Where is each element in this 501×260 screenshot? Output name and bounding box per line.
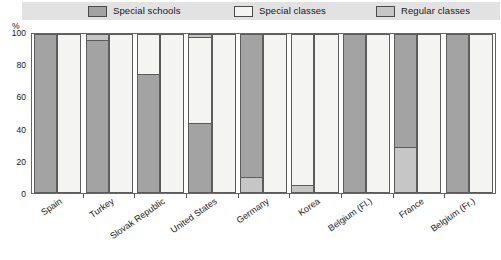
stacked-bar[interactable]	[469, 34, 493, 193]
bar-segment[interactable]	[263, 34, 287, 193]
x-axis-category-label: Turkey	[88, 196, 116, 220]
bar-segment[interactable]	[188, 37, 211, 123]
bar-group[interactable]	[289, 34, 340, 193]
bar-segment[interactable]	[240, 177, 263, 193]
bar-group[interactable]	[135, 34, 186, 193]
bar-segment[interactable]	[314, 34, 338, 193]
stacked-bar[interactable]	[446, 34, 469, 193]
chart-plot-area	[31, 33, 496, 194]
bar-group[interactable]	[83, 34, 134, 193]
stacked-bar[interactable]	[188, 34, 211, 193]
x-axis-category-label: France	[397, 196, 426, 220]
bar-segment[interactable]	[394, 147, 417, 193]
chart-legend: Special schools Special classes Regular …	[22, 2, 500, 20]
bar-segment[interactable]	[417, 34, 441, 193]
x-axis-category-label: Belgium (Fl.)	[326, 196, 374, 233]
bar-segment[interactable]	[57, 34, 81, 193]
x-axis-category-label: Germany	[235, 196, 271, 225]
legend-label-special-classes: Special classes	[259, 6, 326, 16]
stacked-bar[interactable]	[394, 34, 417, 193]
bar-segment[interactable]	[109, 34, 133, 193]
y-axis-tick-label: 60	[17, 93, 26, 102]
y-axis-tick-label: 100	[12, 29, 26, 38]
x-axis-labels: SpainTurkeySlovak RepublicUnited StatesG…	[31, 196, 496, 260]
y-axis-tick-label: 20	[17, 158, 26, 167]
bar-group[interactable]	[238, 34, 289, 193]
legend-item-special-schools: Special schools	[88, 6, 181, 17]
stacked-bar[interactable]	[417, 34, 441, 193]
stacked-bar[interactable]	[240, 34, 263, 193]
bar-segment[interactable]	[137, 74, 160, 193]
x-axis-category-label: Belgium (Fr.)	[429, 196, 477, 234]
x-axis-category-label: Korea	[296, 196, 321, 218]
y-axis-tick-label: 80	[17, 61, 26, 70]
legend-swatch-regular-classes	[376, 6, 395, 17]
legend-item-regular-classes: Regular classes	[376, 6, 470, 17]
stacked-bar[interactable]	[314, 34, 338, 193]
bar-segment[interactable]	[469, 34, 493, 193]
bar-segment[interactable]	[137, 34, 160, 74]
bar-group[interactable]	[392, 34, 443, 193]
bar-group[interactable]	[341, 34, 392, 193]
stacked-bar[interactable]	[263, 34, 287, 193]
stacked-bar[interactable]	[109, 34, 133, 193]
bar-group[interactable]	[444, 34, 495, 193]
bar-group[interactable]	[186, 34, 237, 193]
legend-swatch-special-schools	[88, 6, 107, 17]
bar-segment[interactable]	[160, 34, 184, 193]
stacked-bar[interactable]	[57, 34, 81, 193]
bar-segment[interactable]	[394, 34, 417, 147]
bar-segment[interactable]	[34, 34, 57, 193]
y-axis-tick-label: 0	[21, 190, 26, 199]
bar-segment[interactable]	[291, 185, 314, 193]
stacked-bar[interactable]	[366, 34, 390, 193]
legend-label-regular-classes: Regular classes	[401, 6, 470, 16]
bar-groups-container	[32, 34, 495, 193]
bar-segment[interactable]	[366, 34, 390, 193]
stacked-bar[interactable]	[34, 34, 57, 193]
bar-segment[interactable]	[212, 34, 236, 193]
bar-segment[interactable]	[446, 34, 469, 193]
bar-segment[interactable]	[188, 123, 211, 193]
bar-segment[interactable]	[86, 40, 109, 193]
stacked-bar[interactable]	[160, 34, 184, 193]
bar-segment[interactable]	[240, 34, 263, 177]
bar-segment[interactable]	[291, 34, 314, 185]
y-axis: 020406080100	[0, 33, 31, 194]
x-axis-category-label: United States	[169, 196, 219, 235]
legend-label-special-schools: Special schools	[113, 6, 181, 16]
x-axis-category-label: Spain	[39, 196, 64, 217]
stacked-bar[interactable]	[291, 34, 314, 193]
legend-item-special-classes: Special classes	[234, 6, 326, 17]
legend-swatch-special-classes	[234, 6, 253, 17]
bar-group[interactable]	[32, 34, 83, 193]
bar-segment[interactable]	[343, 34, 366, 193]
stacked-bar[interactable]	[86, 34, 109, 193]
y-axis-tick-label: 40	[17, 126, 26, 135]
stacked-bar[interactable]	[343, 34, 366, 193]
stacked-bar[interactable]	[137, 34, 160, 193]
x-axis-category-label: Slovak Republic	[108, 196, 167, 241]
stacked-bar[interactable]	[212, 34, 236, 193]
